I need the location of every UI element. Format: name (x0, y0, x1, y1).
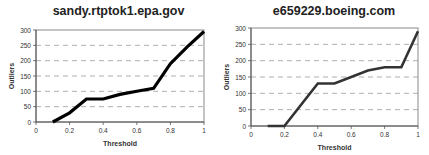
y-axis-label: Outliers (8, 63, 15, 90)
x-tick-label: 0.2 (280, 131, 289, 138)
x-tick-label: 0.2 (65, 127, 74, 134)
series-line (268, 31, 418, 126)
x-tick-label: 0.6 (347, 131, 356, 138)
x-tick-label: 0 (34, 127, 38, 134)
y-tick-label: 100 (235, 90, 246, 97)
chart-sandy-epa: sandy.rtptok1.epa.gov 050100150200250300… (0, 0, 215, 155)
x-tick-label: 1 (416, 131, 420, 138)
y-tick-label: 250 (20, 42, 31, 49)
chart-plot: 05010015020025030000.20.40.60.81Threshol… (215, 0, 429, 155)
x-tick-label: 0.6 (132, 127, 141, 134)
y-tick-label: 200 (20, 57, 31, 64)
y-tick-label: 0 (242, 123, 246, 130)
y-tick-label: 50 (24, 103, 32, 110)
y-tick-label: 50 (239, 106, 247, 113)
y-tick-label: 300 (20, 27, 31, 34)
y-axis-label: Outliers (223, 64, 230, 91)
y-tick-label: 150 (235, 74, 246, 81)
x-tick-label: 0 (249, 131, 253, 138)
x-tick-label: 0.8 (166, 127, 175, 134)
y-tick-label: 300 (235, 25, 246, 32)
x-tick-label: 0.4 (99, 127, 108, 134)
x-tick-label: 1 (202, 127, 206, 134)
chart-plot: 05010015020025030000.20.40.60.81Threshol… (0, 0, 215, 155)
x-tick-label: 0.4 (313, 131, 322, 138)
y-tick-label: 200 (235, 57, 246, 64)
chart-boeing: e659229.boeing.com 05010015020025030000.… (215, 0, 429, 155)
x-axis-label: Threshold (103, 140, 137, 147)
y-tick-label: 100 (20, 88, 31, 95)
y-tick-label: 0 (27, 119, 31, 126)
y-tick-label: 150 (20, 73, 31, 80)
y-tick-label: 250 (235, 41, 246, 48)
x-tick-label: 0.8 (380, 131, 389, 138)
x-axis-label: Threshold (318, 144, 352, 151)
